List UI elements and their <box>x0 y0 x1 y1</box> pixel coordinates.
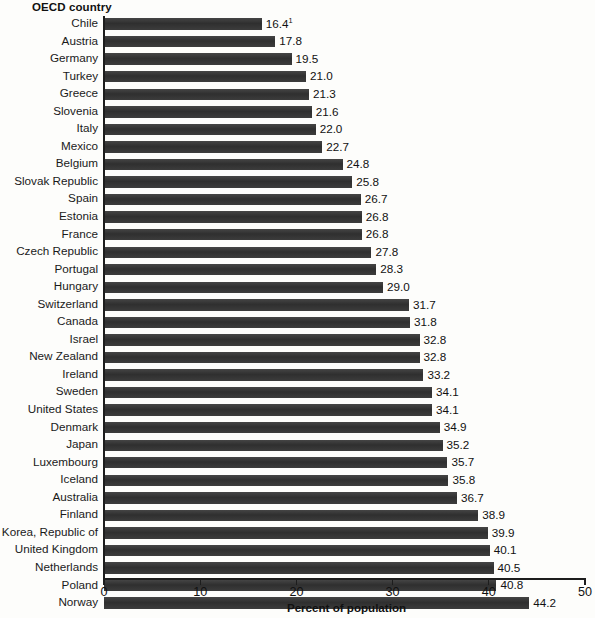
bar-value-label: 35.7 <box>451 456 474 469</box>
y-axis-line <box>103 16 105 578</box>
category-label: Chile <box>0 17 98 29</box>
bar-track: 16.41 <box>104 18 595 29</box>
bar-value-label: 28.3 <box>380 263 403 276</box>
bar <box>104 194 361 205</box>
bar <box>104 18 262 29</box>
bar <box>104 299 409 310</box>
bar-track: 31.7 <box>104 299 595 310</box>
bar-value-label: 40.8 <box>500 579 523 592</box>
bar-row: Hungary29.0 <box>0 279 595 297</box>
category-label: New Zealand <box>0 350 98 362</box>
bar-track: 34.1 <box>104 387 595 398</box>
bar-track: 26.7 <box>104 194 595 205</box>
bar-value-label: 35.8 <box>452 474 475 487</box>
bar-row: Slovenia21.6 <box>0 104 595 122</box>
bar-track: 24.8 <box>104 159 595 170</box>
category-label: Spain <box>0 192 98 204</box>
category-label: Slovenia <box>0 105 98 117</box>
bar-row: Canada31.8 <box>0 314 595 332</box>
bar-value-label: 32.8 <box>424 334 447 347</box>
bar-track: 34.1 <box>104 404 595 415</box>
category-label: Netherlands <box>0 561 98 573</box>
bar <box>104 317 410 328</box>
bar-row: Slovak Republic25.8 <box>0 174 595 192</box>
bar <box>104 352 420 363</box>
bar-value-label: 31.7 <box>413 299 436 312</box>
bar-track: 40.1 <box>104 545 595 556</box>
x-tick <box>584 578 585 585</box>
bar-value-label: 24.8 <box>347 158 370 171</box>
plot-area: Chile16.41Austria17.8Germany19.5Turkey21… <box>0 16 595 578</box>
bar-track: 22.0 <box>104 124 595 135</box>
x-tick-label: 30 <box>386 585 400 599</box>
bar-value-label: 38.9 <box>482 509 505 522</box>
category-label: Luxembourg <box>0 456 98 468</box>
bar-row: Spain26.7 <box>0 191 595 209</box>
bar-row: United Kingdom40.1 <box>0 542 595 560</box>
bar <box>104 141 322 152</box>
bar-row: Turkey21.0 <box>0 69 595 87</box>
category-label: Canada <box>0 315 98 327</box>
bar-row: Austria17.8 <box>0 34 595 52</box>
bar <box>104 176 352 187</box>
bar <box>104 369 423 380</box>
bar-value-label: 40.5 <box>498 562 521 575</box>
category-label: Estonia <box>0 210 98 222</box>
bar-value-label: 29.0 <box>387 281 410 294</box>
category-label: Slovak Republic <box>0 175 98 187</box>
bar <box>104 106 312 117</box>
bar-row: Luxembourg35.7 <box>0 455 595 473</box>
bar-rows: Chile16.41Austria17.8Germany19.5Turkey21… <box>0 16 595 613</box>
bar-value-label: 34.1 <box>436 386 459 399</box>
bar-value-label: 22.0 <box>320 123 343 136</box>
bar <box>104 89 309 100</box>
bar-value-label: 36.7 <box>461 492 484 505</box>
bar <box>104 387 432 398</box>
bar-track: 38.9 <box>104 510 595 521</box>
bar <box>104 422 440 433</box>
bar-track: 32.8 <box>104 352 595 363</box>
category-label: Denmark <box>0 421 98 433</box>
bar <box>104 457 447 468</box>
bar-track: 40.8 <box>104 580 595 591</box>
x-axis-title: Percent of population <box>0 601 595 614</box>
bar <box>104 264 376 275</box>
bar <box>104 404 432 415</box>
bar-value-label: 21.0 <box>310 70 333 83</box>
bar-track: 35.2 <box>104 440 595 451</box>
bar-track: 25.8 <box>104 176 595 187</box>
bar-row: Australia36.7 <box>0 490 595 508</box>
bar-track: 21.0 <box>104 71 595 82</box>
bar-row: Italy22.0 <box>0 121 595 139</box>
bar-value-label: 32.8 <box>424 351 447 364</box>
bar-row: Denmark34.9 <box>0 420 595 438</box>
bar-row: Chile16.41 <box>0 16 595 34</box>
bar <box>104 562 494 573</box>
bar-track: 35.7 <box>104 457 595 468</box>
bar <box>104 53 292 64</box>
bar-value-label: 21.6 <box>316 106 339 119</box>
x-tick-label: 0 <box>100 585 107 599</box>
x-tick <box>392 578 393 585</box>
bar-value-label: 40.1 <box>494 544 517 557</box>
bar-row: Germany19.5 <box>0 51 595 69</box>
bar-row: Switzerland31.7 <box>0 297 595 315</box>
category-label: Italy <box>0 122 98 134</box>
bar-track: 35.8 <box>104 475 595 486</box>
x-tick <box>296 578 297 585</box>
bar-value-label: 26.8 <box>366 211 389 224</box>
category-label: Mexico <box>0 140 98 152</box>
bar <box>104 211 362 222</box>
bar-value-label: 22.7 <box>326 141 349 154</box>
category-label: United States <box>0 403 98 415</box>
bar-row: Belgium24.8 <box>0 156 595 174</box>
bar <box>104 159 343 170</box>
bar-track: 26.8 <box>104 211 595 222</box>
bar <box>104 282 383 293</box>
bar-track: 31.8 <box>104 317 595 328</box>
bar-value-label: 17.8 <box>279 35 302 48</box>
bar-row: Czech Republic27.8 <box>0 244 595 262</box>
bar-track: 29.0 <box>104 282 595 293</box>
x-tick <box>200 578 201 585</box>
bar-value-label: 27.8 <box>375 246 398 259</box>
